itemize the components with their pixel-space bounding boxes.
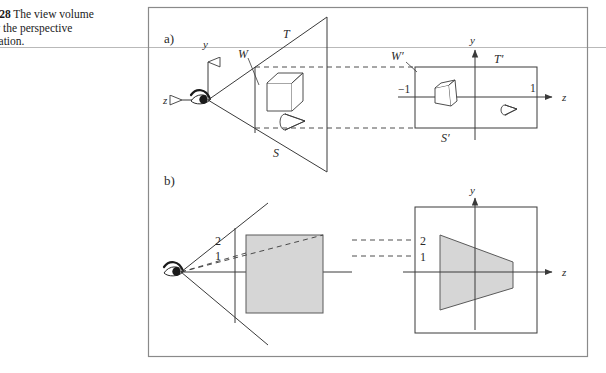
bottom-plane-label-S: S — [273, 146, 279, 160]
near-plane-label-W-prime: W′ — [391, 49, 404, 63]
bottom-plane-label-S-prime: S′ — [441, 131, 450, 145]
eye-icon — [191, 90, 210, 104]
figure-page: E 7.28 The view volume d by the perspect… — [0, 0, 606, 373]
top-plane-label-T: T — [283, 27, 291, 41]
panel-a-right-z-label: z — [561, 91, 567, 103]
figure-border — [149, 8, 588, 357]
panel-b-right-ray-label-2: 2 — [420, 234, 426, 248]
panel-b-left-ray-1 — [181, 253, 246, 272]
panel-a-left-y-label: y — [202, 38, 208, 50]
distorted-cone-shape — [501, 105, 517, 115]
panel-a-left-z-label: z — [162, 94, 168, 106]
panel-a-label: a) — [164, 31, 174, 46]
panel-b-left-ray-label-1: 1 — [215, 249, 221, 263]
top-plane-label-T-prime: T′ — [494, 52, 504, 66]
near-plane-label-W: W — [238, 47, 249, 61]
cube-shape — [267, 73, 303, 111]
panel-b-label: b) — [164, 173, 175, 188]
distorted-cube-shape — [435, 80, 457, 106]
panel-a-right-y-label: y — [469, 34, 475, 46]
panel-b-left-ray-label-2: 2 — [215, 234, 221, 248]
eye-icon-b — [164, 262, 183, 276]
tick-label-minus-one: −1 — [398, 83, 410, 95]
figure-diagram: a) y z W T S — [0, 0, 606, 373]
panel-b-right-ray-label-1: 1 — [420, 250, 426, 264]
panel-b-right-z-label: z — [561, 266, 567, 278]
tick-label-one: 1 — [530, 82, 536, 94]
square-object — [246, 235, 323, 313]
panel-b-right-y-label: y — [469, 184, 475, 196]
